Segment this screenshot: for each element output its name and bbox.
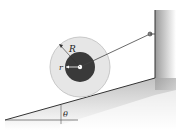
- incline-angle-label: θ: [63, 110, 68, 119]
- outer-radius-label: R: [68, 44, 76, 54]
- spool-on-incline-diagram: R r θ: [0, 0, 176, 130]
- wall-pin-icon: [148, 32, 155, 36]
- diagram-canvas: R r θ: [0, 0, 176, 130]
